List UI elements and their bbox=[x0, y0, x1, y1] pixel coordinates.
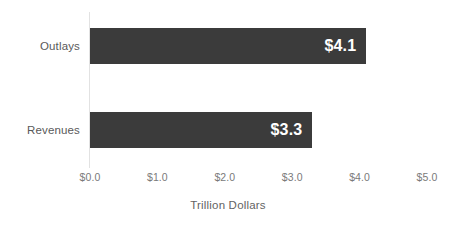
bar-chart: Outlays $4.1 Revenues $3.3 $0.0$1.0$2.0$… bbox=[0, 0, 456, 231]
plot-area: Outlays $4.1 Revenues $3.3 bbox=[0, 0, 456, 168]
bar-value-label-revenues: $3.3 bbox=[254, 112, 302, 148]
x-tick-label: $4.0 bbox=[330, 171, 390, 183]
bar-row: Revenues $3.3 bbox=[0, 112, 456, 148]
x-axis: $0.0$1.0$2.0$3.0$4.0$5.0 bbox=[0, 168, 456, 192]
category-label-revenues: Revenues bbox=[27, 112, 80, 148]
x-tick-label: $2.0 bbox=[195, 171, 255, 183]
x-tick-label: $1.0 bbox=[127, 171, 187, 183]
x-axis-title: Trillion Dollars bbox=[0, 199, 456, 211]
x-tick-label: $3.0 bbox=[262, 171, 322, 183]
x-tick-label: $5.0 bbox=[397, 171, 456, 183]
category-label-outlays: Outlays bbox=[40, 28, 80, 64]
bar-row: Outlays $4.1 bbox=[0, 28, 456, 64]
x-tick-label: $0.0 bbox=[60, 171, 120, 183]
bar-value-label-outlays: $4.1 bbox=[308, 28, 356, 64]
